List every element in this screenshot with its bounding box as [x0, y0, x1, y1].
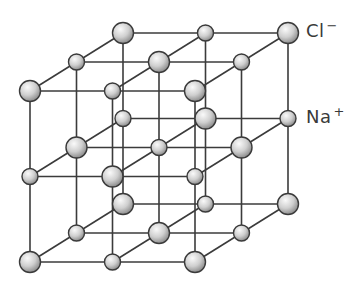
sodium-ion	[198, 25, 214, 41]
chloride-ion	[195, 108, 216, 129]
chloride-ion	[231, 137, 252, 158]
sodium-ion-label: Na+	[306, 108, 345, 126]
sodium-ion	[280, 111, 296, 127]
lattice-ions	[20, 23, 299, 273]
sodium-ion	[105, 83, 121, 99]
sodium-ion	[187, 169, 203, 185]
chloride-ion	[20, 81, 41, 102]
sodium-ion	[234, 54, 250, 70]
chloride-ion	[278, 194, 299, 215]
chloride-ion	[185, 252, 206, 273]
chloride-ion	[185, 81, 206, 102]
sodium-ion	[105, 254, 121, 270]
sodium-symbol: Na	[306, 106, 332, 127]
chloride-ion	[102, 166, 123, 187]
chloride-ion	[66, 137, 87, 158]
chloride-ion	[113, 194, 134, 215]
sodium-ion	[234, 225, 250, 241]
sodium-ion	[151, 140, 167, 156]
chloride-ion	[278, 23, 299, 44]
sodium-ion	[69, 225, 85, 241]
sodium-charge: +	[334, 104, 345, 119]
chloride-ion	[113, 23, 134, 44]
sodium-ion	[22, 169, 38, 185]
sodium-ion	[115, 111, 131, 127]
sodium-ion	[69, 54, 85, 70]
chloride-symbol: Cl	[306, 20, 325, 41]
nacl-lattice-diagram	[0, 0, 364, 294]
chloride-ion-label: Cl−	[306, 22, 338, 40]
chloride-ion	[20, 252, 41, 273]
chloride-ion	[149, 52, 170, 73]
sodium-ion	[198, 196, 214, 212]
chloride-charge: −	[327, 18, 338, 33]
chloride-ion	[149, 223, 170, 244]
